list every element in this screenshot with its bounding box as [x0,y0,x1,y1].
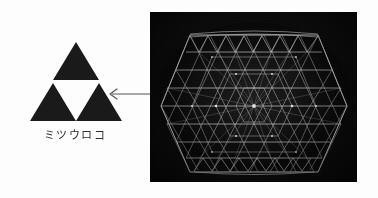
mitsu-uroko-crest [30,38,122,126]
crest-triangle-bottom-left [30,83,76,121]
comparison-arrow [106,84,154,104]
emblem-caption: ミツウロコ [0,129,150,143]
lattice-photograph [150,12,357,182]
lattice-wireframe-graphic [150,12,357,182]
crest-triangle-top [53,42,99,80]
figure-root: ミツウロコ [0,0,378,198]
